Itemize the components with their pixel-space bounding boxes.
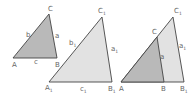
side-b1-label: b1 [69,39,76,48]
overlay-small-triangle [121,37,164,82]
overlay-triangles: C1 C A B B1 a a1 [119,7,188,94]
side-a-label: a [55,32,59,40]
side-c-label: c [34,58,38,66]
vertex-a1-label: A1 [45,84,53,93]
vertex-c1-label: C1 [98,7,106,16]
side-c1-label: c1 [80,85,87,94]
vertex-c-label: C [48,5,53,13]
overlay-vertex-c-label: C [152,28,157,36]
overlay-vertex-c1-label: C1 [174,7,182,16]
side-b-label: b [26,31,31,39]
overlay-side-a1-label: a1 [179,42,186,51]
vertex-a-label: A [12,61,17,69]
overlay-side-a-label: a [160,53,164,61]
vertex-b1-label: B1 [108,85,116,94]
overlay-vertex-a-label: A [119,85,124,93]
triangle-a1b1c1-shape [49,17,112,82]
triangle-abc: C A B b a c [12,5,60,69]
side-a1-label: a1 [111,45,118,54]
overlay-vertex-b-label: B [161,85,166,93]
overlay-vertex-b1-label: B1 [180,85,188,94]
vertex-b-label: B [55,61,60,69]
similar-triangles-diagram: C A B b a c C1 A1 B1 b1 a1 c1 C1 C A B B… [0,0,193,97]
triangle-abc-shape [13,14,57,58]
